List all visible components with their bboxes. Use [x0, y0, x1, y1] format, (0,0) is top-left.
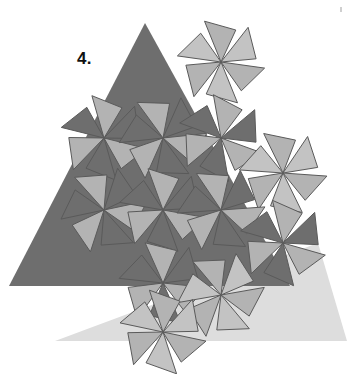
- tessellation-figure: [0, 0, 347, 374]
- figure-container: 4.: [0, 0, 347, 374]
- corner-artifact-mark: [340, 7, 342, 12]
- figure-number-label: 4.: [77, 50, 92, 67]
